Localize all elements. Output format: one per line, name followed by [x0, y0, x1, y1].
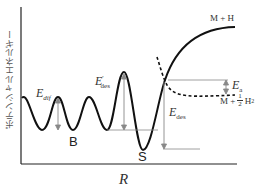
label-e-dif: Edif	[36, 86, 51, 102]
x-axis-label: R	[119, 171, 128, 188]
y-axis-label: ポテンシャルエネルギー	[2, 30, 16, 129]
dashed-curve	[157, 57, 235, 96]
label-site-b: B	[69, 134, 78, 149]
label-e-des: Edes	[169, 105, 186, 121]
potential-curve	[22, 27, 235, 150]
label-site-s: S	[138, 149, 147, 164]
label-state-m-h: M + H	[210, 13, 234, 23]
label-state-m-half-h2: M + 1 2 H2	[220, 93, 254, 108]
label-e-des-prime: E'des	[95, 74, 110, 90]
